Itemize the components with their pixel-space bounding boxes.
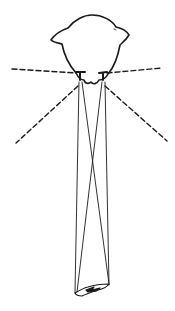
left-diagonal-dashed <box>16 86 78 143</box>
right-eye-cross <box>77 82 102 292</box>
left-horizontal-dashed <box>12 69 76 73</box>
right-horizontal-dashed <box>107 68 162 73</box>
vision-diagram <box>0 0 175 311</box>
head-outline <box>51 15 129 84</box>
head-mark <box>114 29 116 30</box>
diagram-canvas <box>0 0 175 311</box>
prey-detail <box>86 287 100 292</box>
right-eye-outer <box>105 82 109 285</box>
left-eye-cross <box>82 82 109 284</box>
left-eye-outer <box>75 82 79 293</box>
right-diagonal-dashed <box>105 86 167 141</box>
